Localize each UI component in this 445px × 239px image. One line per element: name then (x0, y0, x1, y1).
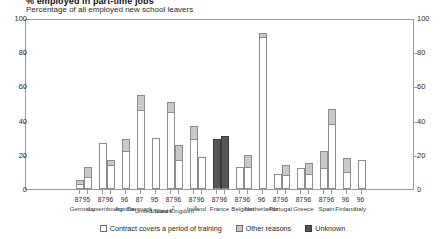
y-tick-label-right: 0 (417, 186, 437, 194)
x-tick-mark (87, 190, 88, 194)
bar-segment-training (167, 112, 175, 189)
bar (122, 139, 130, 189)
y-tick-mark (22, 156, 25, 157)
x-tick-mark (155, 190, 156, 194)
x-axis-country-label: France (210, 205, 229, 213)
bar (84, 167, 92, 189)
x-tick-label-year: 87 (296, 196, 303, 204)
plot-area (25, 19, 414, 190)
bar-segment-training (190, 139, 198, 189)
x-tick-label-year: 87 (235, 196, 242, 204)
bar-segment-other-reasons (175, 145, 183, 160)
x-axis-country-label: Spain (319, 205, 335, 213)
chart-legend: Contract covers a period of trainingOthe… (0, 224, 445, 233)
bar (320, 151, 328, 189)
x-tick-label-year: 96 (357, 196, 364, 204)
x-tick-label-year: 87 (189, 196, 196, 204)
bar (244, 155, 252, 189)
legend-label: Unknown (315, 224, 345, 233)
bar (305, 163, 313, 189)
y-tick-mark (22, 122, 25, 123)
x-tick-label-year: 96 (106, 196, 113, 204)
x-tick-label-year: 87 (98, 196, 105, 204)
x-tick-mark (285, 190, 286, 194)
x-axis-country-label: Finland (335, 205, 355, 213)
x-tick-mark (201, 190, 202, 194)
legend-item[interactable]: Other reasons (236, 224, 292, 233)
bar (282, 165, 290, 189)
x-tick-mark (110, 190, 111, 194)
legend-item[interactable]: Contract covers a period of training (100, 224, 222, 233)
x-tick-mark (247, 190, 248, 194)
bar (152, 138, 160, 189)
x-tick-mark (79, 190, 80, 194)
x-tick-label-year: 87 (212, 196, 219, 204)
bar (137, 95, 145, 189)
x-tick-mark (170, 190, 171, 194)
x-tick-label-year: 87 (136, 196, 143, 204)
x-tick-mark (216, 190, 217, 194)
x-tick-label-year: 95 (151, 196, 158, 204)
x-axis-country-label: Italy (355, 205, 366, 213)
legend-label: Contract covers a period of training (110, 224, 222, 233)
x-tick-mark (193, 190, 194, 194)
bar (198, 157, 206, 189)
x-tick-mark (224, 190, 225, 194)
bar-segment-training (175, 160, 183, 189)
bar-segment-unknown (221, 136, 229, 189)
bar-segment-training (107, 165, 115, 189)
x-tick-label-year: 96 (258, 196, 265, 204)
bar-segment-training (84, 177, 92, 189)
bar-segment-other-reasons (305, 163, 313, 173)
x-tick-mark (361, 190, 362, 194)
bar-segment-training (76, 184, 84, 189)
bar (358, 160, 366, 189)
bar-segment-training (259, 37, 267, 189)
bar-segment-training (137, 110, 145, 189)
x-tick-mark (125, 190, 126, 194)
x-tick-label-year: 87 (75, 196, 82, 204)
bar-segment-training (244, 167, 252, 189)
bar (76, 180, 84, 189)
y-tick-label-left: 100 (7, 15, 27, 23)
chart-page: % employed in part-time jobs Percentage … (0, 0, 445, 239)
bar-segment-other-reasons (137, 95, 145, 110)
legend-item[interactable]: Unknown (305, 224, 345, 233)
x-tick-mark (262, 190, 263, 194)
y-tick-label-right: 100 (417, 15, 437, 23)
legend-swatch-icon (305, 225, 312, 232)
x-tick-mark (300, 190, 301, 194)
x-tick-mark (277, 190, 278, 194)
bars-layer (26, 20, 413, 189)
x-tick-label-year: 87 (273, 196, 280, 204)
x-tick-mark (323, 190, 324, 194)
bar-segment-training (297, 168, 305, 189)
bar-segment-other-reasons (167, 102, 175, 112)
x-tick-label-year: 96 (174, 196, 181, 204)
bar (328, 109, 336, 189)
y-tick-mark (414, 87, 417, 88)
x-tick-label-year: 96 (327, 196, 334, 204)
x-tick-mark (102, 190, 103, 194)
y-tick-label-right: 80 (417, 49, 437, 57)
chart-subtitle: Percentage of all employed new school le… (26, 5, 193, 14)
x-tick-mark (346, 190, 347, 194)
bar-segment-training (274, 174, 282, 189)
x-axis-country-label: Ireland (187, 205, 206, 213)
bar (175, 145, 183, 189)
x-tick-label-year: 96 (281, 196, 288, 204)
x-tick-label-year: 96 (121, 196, 128, 204)
x-axis-country-label: Portugal (269, 205, 292, 213)
bar-segment-other-reasons (282, 165, 290, 175)
bar-segment-other-reasons (122, 139, 130, 151)
bar (297, 168, 305, 189)
bar-segment-training (122, 151, 130, 189)
bar-segment-other-reasons (84, 167, 92, 177)
y-tick-label-right: 60 (417, 83, 437, 91)
bar (190, 126, 198, 189)
legend-swatch-icon (236, 225, 243, 232)
x-tick-label-year: 87 (166, 196, 173, 204)
y-tick-label-right: 20 (417, 152, 437, 160)
x-tick-label-year: 96 (304, 196, 311, 204)
legend-label: Other reasons (246, 224, 292, 233)
